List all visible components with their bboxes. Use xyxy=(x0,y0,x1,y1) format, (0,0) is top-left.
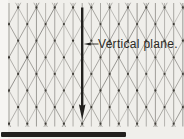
figure-page: Vertical plane. xyxy=(0,0,184,139)
vertical-plane-label: Vertical plane. xyxy=(98,37,178,51)
isometric-grid-lines xyxy=(0,3,184,128)
bottom-rule-bar xyxy=(1,132,126,137)
vertical-plane-arrow-icon xyxy=(79,8,86,120)
isometric-grid-figure xyxy=(0,0,184,139)
